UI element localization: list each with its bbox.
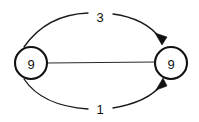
edge-bottom-arrowhead-icon bbox=[156, 78, 167, 90]
edge-bottom-label: 1 bbox=[96, 102, 103, 117]
edge-top-label: 3 bbox=[96, 10, 103, 25]
graph-diagram: 3 1 9 9 bbox=[0, 0, 199, 122]
node-right-label: 9 bbox=[167, 57, 174, 72]
node-left-label: 9 bbox=[27, 57, 34, 72]
edge-top-arc-left-segment bbox=[24, 13, 88, 47]
edge-top: 3 bbox=[24, 10, 167, 48]
graph-canvas: 3 1 9 9 bbox=[0, 0, 199, 122]
edge-top-arc-right-segment bbox=[113, 14, 160, 38]
edge-bottom-arc-left-segment bbox=[24, 79, 88, 109]
edge-middle-line bbox=[47, 62, 155, 63]
edge-bottom: 1 bbox=[24, 78, 167, 117]
edge-bottom-arc-right-segment bbox=[113, 85, 161, 108]
node-right[interactable]: 9 bbox=[155, 47, 187, 79]
node-left[interactable]: 9 bbox=[15, 47, 47, 79]
edge-middle bbox=[47, 62, 155, 63]
edge-top-arrowhead-icon bbox=[155, 33, 167, 45]
